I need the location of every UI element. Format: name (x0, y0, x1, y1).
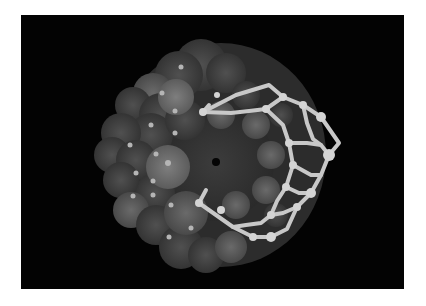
molecular-render-panel (21, 15, 404, 289)
capsid-structure-image (21, 15, 404, 289)
